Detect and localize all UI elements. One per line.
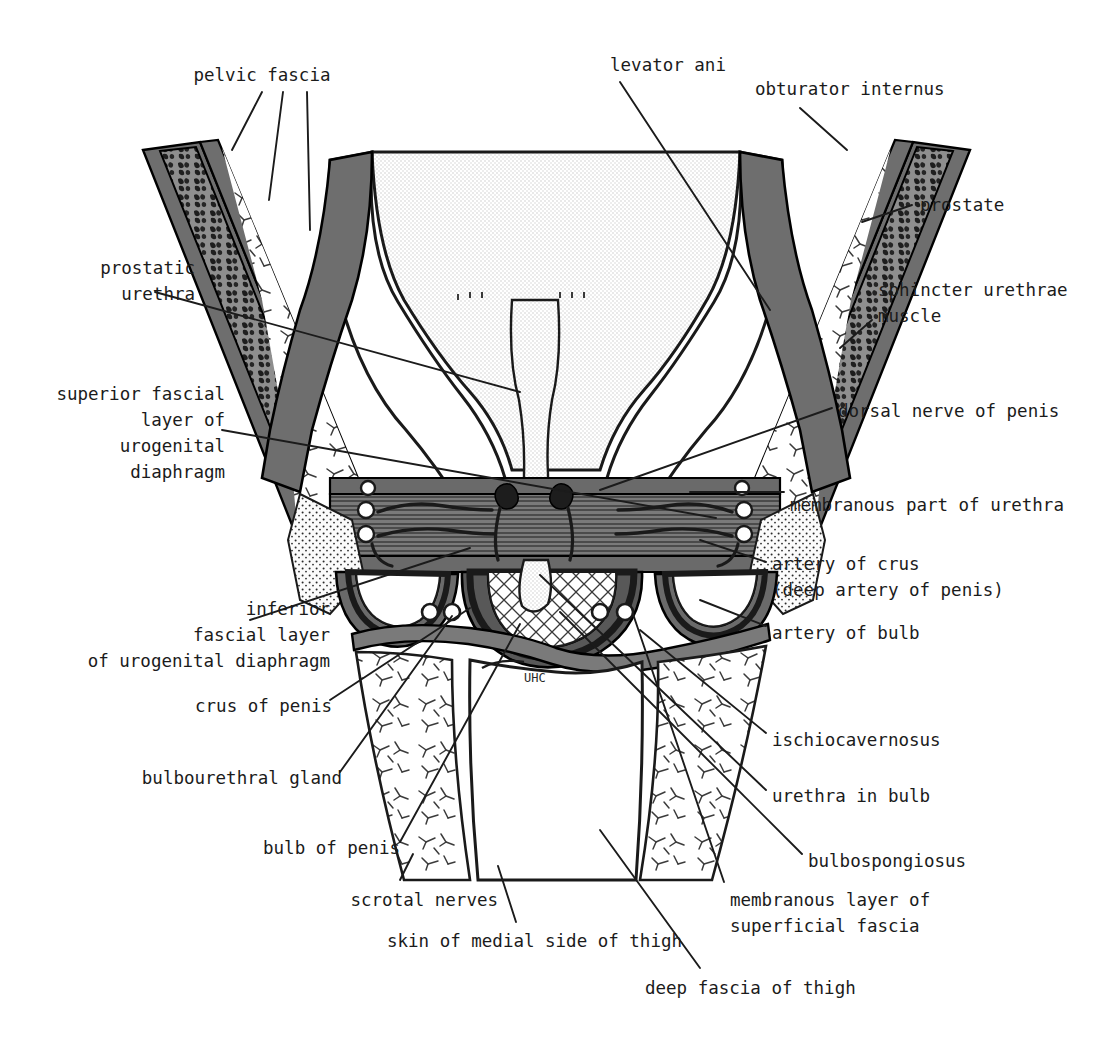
label-deep-fascia-thigh: deep fascia of thigh bbox=[645, 975, 895, 1001]
label-skin-medial-thigh: skin of medial side of thigh bbox=[330, 928, 682, 954]
scrotum-septum bbox=[470, 660, 643, 880]
label-membranous-urethra: membranous part of urethra bbox=[790, 492, 1110, 518]
label-levator-ani: levator ani bbox=[600, 52, 736, 78]
label-inferior-fascial: inferior fascial layer of urogenital dia… bbox=[10, 596, 330, 674]
label-membranous-layer: membranous layer of superficial fascia bbox=[730, 887, 980, 939]
label-artery-of-crus: artery of crus (deep artery of penis) bbox=[772, 551, 1072, 603]
label-bulb-of-penis: bulb of penis bbox=[160, 835, 400, 861]
label-obturator-internus: obturator internus bbox=[755, 76, 965, 102]
label-urethra-in-bulb: urethra in bulb bbox=[772, 783, 962, 809]
label-superior-fascial: superior fascial layer of urogenital dia… bbox=[15, 381, 225, 485]
label-pelvic-fascia: pelvic fascia bbox=[182, 62, 342, 88]
anatomical-diagram-page: UHC pelvic fascialevator aniobturator in… bbox=[0, 0, 1113, 1052]
label-scrotal-nerves: scrotal nerves bbox=[248, 887, 498, 913]
label-dorsal-nerve-penis: dorsal nerve of penis bbox=[838, 398, 1098, 424]
label-prostate: prostate bbox=[920, 192, 1030, 218]
label-bulbourethral-gland: bulbourethral gland bbox=[90, 765, 342, 791]
label-prostatic-urethra: prostatic urethra bbox=[35, 255, 195, 307]
label-ischiocavernosus: ischiocavernosus bbox=[772, 727, 982, 753]
watermark-uhc: UHC bbox=[524, 671, 546, 685]
label-bulbospongiosus: bulbospongiosus bbox=[808, 848, 1008, 874]
label-crus-of-penis: crus of penis bbox=[100, 693, 332, 719]
label-artery-of-bulb: artery of bulb bbox=[772, 620, 952, 646]
label-sphincter-urethrae: sphincter urethrae muscle bbox=[878, 277, 1108, 329]
